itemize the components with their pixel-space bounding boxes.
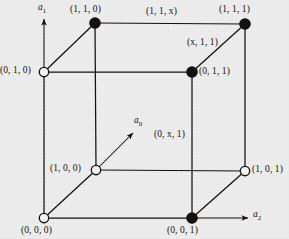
vertex-label-v101: (1, 0, 1) [252, 165, 283, 175]
edge-v001-v101 [192, 171, 245, 218]
edge-v110-v111 [95, 23, 245, 24]
vertex-label-v001: (0, 0, 1) [167, 226, 198, 236]
vertex-v100[interactable] [91, 165, 100, 174]
edge-v010-v110 [44, 23, 95, 72]
vertex-v000[interactable] [39, 213, 48, 222]
vertex-v011[interactable] [187, 67, 197, 77]
vertex-label-v010: (0, 1, 0) [0, 66, 31, 76]
vertex-v101[interactable] [240, 166, 249, 175]
vertex-v111[interactable] [240, 19, 250, 29]
vertex-v110[interactable] [90, 18, 100, 28]
axis-label-a0: a0 [134, 116, 142, 128]
vertex-v001[interactable] [187, 213, 197, 223]
vertex-label-v100: (1, 0, 0) [50, 164, 81, 174]
vertex-v010[interactable] [39, 67, 48, 76]
axis-arrow-a0 [96, 133, 133, 170]
edge-label-x11: (x, 1, 1) [187, 38, 218, 48]
edge-v011-v111 [192, 24, 245, 72]
edge-v000-v100 [44, 170, 96, 218]
axis-label-a1: a1 [38, 3, 46, 15]
boolean-cube-figure [0, 0, 289, 239]
vertex-label-v111: (1, 1, 1) [219, 5, 250, 15]
edge-label-11x: (1, 1, x) [146, 7, 177, 17]
vertex-label-v000: (0, 0, 0) [21, 226, 52, 236]
vertex-label-v110: (1, 1, 0) [70, 5, 101, 15]
cube-edges [44, 23, 245, 218]
edge-v110-v100 [95, 23, 96, 170]
axis-label-a2: a2 [253, 210, 261, 222]
edge-label-0x1: (0, x, 1) [154, 130, 185, 140]
edge-v100-v101 [96, 170, 245, 171]
vertex-label-v011: (0, 1, 1) [199, 67, 230, 77]
